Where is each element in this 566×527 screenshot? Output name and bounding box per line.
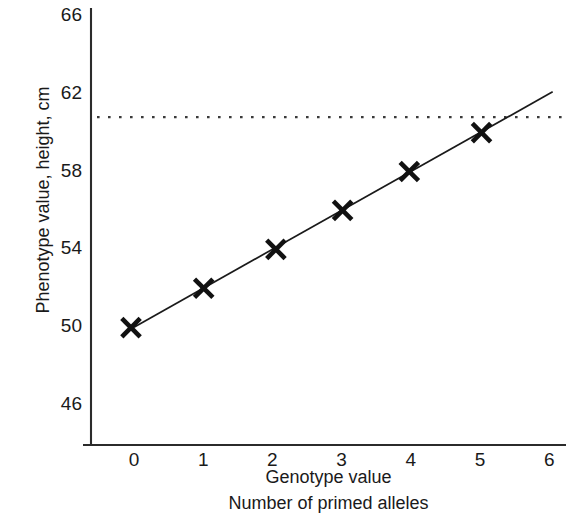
x-axis-title-group: Genotype value Number of primed alleles [91,464,566,516]
data-point-marker [400,162,418,180]
data-point-marker [333,201,351,219]
data-point-marker [195,279,213,297]
data-point-marker [267,240,285,258]
chart-figure: Phenotype value, height, cm 465054586266… [0,0,566,527]
x-axis-subtitle: Number of primed alleles [91,490,566,516]
data-point-marker [472,123,490,141]
plot-area [0,0,566,527]
x-axis-title: Genotype value [91,464,566,490]
data-point-marker [122,318,140,336]
